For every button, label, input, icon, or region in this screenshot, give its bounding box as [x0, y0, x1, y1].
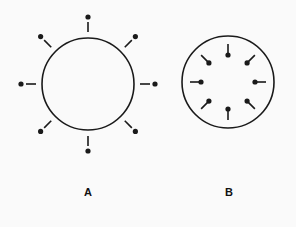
figure-b — [182, 36, 274, 128]
pin-molecule — [225, 44, 230, 58]
pin-molecule — [125, 34, 138, 47]
membrane-circle — [42, 38, 134, 130]
pin-molecule — [201, 98, 211, 108]
pin-molecule — [190, 79, 204, 84]
figure-b-label: B — [225, 186, 233, 198]
pin-molecule — [252, 79, 266, 84]
pin-molecule — [225, 106, 230, 120]
figure-a-label: A — [84, 186, 92, 198]
pin-molecule — [18, 81, 36, 86]
pin-molecule — [38, 121, 51, 134]
pin-molecule — [85, 136, 90, 154]
pin-molecule — [244, 55, 254, 65]
figure-a — [18, 14, 157, 153]
pin-molecule — [125, 121, 138, 134]
pin-molecule — [38, 34, 51, 47]
pin-molecule — [201, 55, 211, 65]
pin-molecule — [140, 81, 158, 86]
diagram-canvas — [0, 0, 296, 227]
pin-molecule — [85, 14, 90, 32]
pin-molecule — [244, 98, 254, 108]
